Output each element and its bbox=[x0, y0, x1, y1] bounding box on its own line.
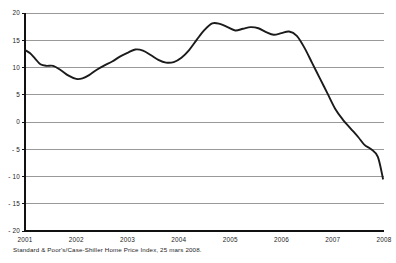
chart-caption: Standard & Poor's/Case-Shiller Home Pric… bbox=[13, 246, 202, 253]
x-tick-label: 2006 bbox=[274, 236, 289, 243]
x-tick-label: 2008 bbox=[376, 236, 391, 243]
y-tick-label: 20 bbox=[12, 9, 20, 16]
x-tick-label: 2004 bbox=[171, 236, 186, 243]
x-tick-label: 2002 bbox=[69, 236, 84, 243]
x-tick-label: 2007 bbox=[325, 236, 340, 243]
y-tick-label: - 15 bbox=[8, 200, 20, 207]
x-tick-label: 2005 bbox=[223, 236, 238, 243]
x-tick-label: 2001 bbox=[17, 236, 32, 243]
data-series-line bbox=[25, 23, 383, 179]
x-tick-label: 2003 bbox=[120, 236, 135, 243]
y-tick-label: - 5 bbox=[12, 146, 20, 153]
y-tick-label: 0 bbox=[16, 118, 20, 125]
y-tick-label: 10 bbox=[12, 64, 20, 71]
chart-figure: 20151050- 5- 10- 15- 20 2001200220032004… bbox=[0, 0, 396, 263]
y-tick-label: 5 bbox=[16, 91, 20, 98]
x-tick-labels-group: 20012002200320042005200620072008 bbox=[17, 236, 391, 243]
y-tick-label: 15 bbox=[12, 37, 20, 44]
y-tick-label: - 10 bbox=[8, 173, 20, 180]
gridlines-group bbox=[25, 13, 384, 231]
y-tick-label: - 20 bbox=[8, 227, 20, 234]
y-tick-labels-group: 20151050- 5- 10- 15- 20 bbox=[8, 9, 20, 234]
line-chart: 20151050- 5- 10- 15- 20 2001200220032004… bbox=[0, 0, 396, 263]
